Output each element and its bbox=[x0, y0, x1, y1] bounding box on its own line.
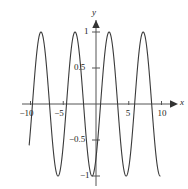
y-axis-label: y bbox=[92, 8, 96, 17]
x-tick-label--10: −10 bbox=[20, 109, 34, 118]
y-tick-label-1: 1 bbox=[84, 27, 89, 36]
y-axis-arrow-icon bbox=[92, 20, 99, 28]
x-tick-label--5: −5 bbox=[54, 109, 64, 118]
y-tick-label-0_5: 0.5 bbox=[74, 63, 85, 72]
x-axis-label: x bbox=[180, 98, 184, 107]
sinusoid-plot bbox=[0, 0, 188, 189]
graph-figure: −10−551010.5−0.5−1xy bbox=[0, 0, 188, 189]
axis-group bbox=[22, 20, 178, 186]
x-tick-label-10: 10 bbox=[158, 109, 167, 118]
y-tick-label--0_5: −0.5 bbox=[69, 135, 85, 144]
y-tick-label--1: −1 bbox=[80, 171, 90, 180]
x-axis-arrow-icon bbox=[170, 100, 178, 108]
x-tick-label-5: 5 bbox=[126, 109, 131, 118]
